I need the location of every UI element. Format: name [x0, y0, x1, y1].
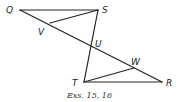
point-label-w: W: [131, 57, 141, 67]
point-label-s: S: [102, 5, 108, 15]
segment-SV: [50, 10, 98, 23]
point-label-r: R: [166, 78, 172, 88]
segment-TW: [84, 68, 134, 82]
point-label-v: V: [38, 27, 45, 37]
figure-caption: Exs. 15, 16: [66, 91, 112, 100]
point-label-u: U: [95, 39, 102, 49]
geometry-figure: Q S V U T W R Exs. 15, 16: [0, 0, 180, 102]
point-label-t: T: [72, 78, 79, 88]
point-label-q: Q: [6, 5, 13, 15]
